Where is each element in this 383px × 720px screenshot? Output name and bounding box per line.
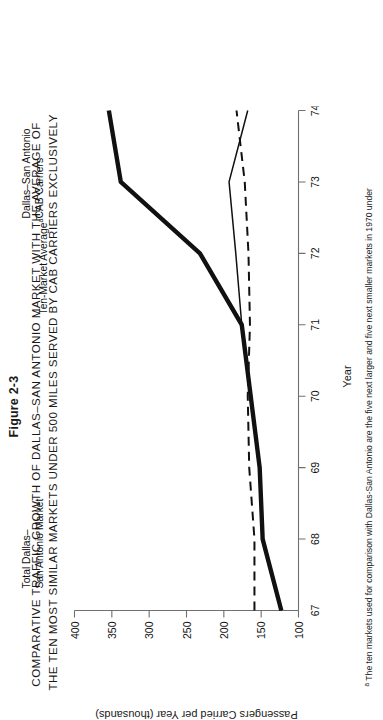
y-axis-tick-label: 250: [180, 621, 192, 639]
x-axis-tick-label: 72: [308, 247, 320, 259]
series-label-ten-market-average-text: Ten-Market Average: [37, 222, 48, 314]
y-axis-tick-label: 200: [217, 621, 229, 639]
x-axis-tick-label: 71: [308, 318, 320, 330]
series-label-total-market: Total Dallas– San Antonio Market: [20, 498, 45, 588]
figure-footnote: a The ten markets used for comparison wi…: [360, 10, 375, 686]
figure-number: Figure 2-3: [6, 126, 20, 686]
y-axis-tick-label: 350: [105, 621, 117, 639]
chart-plot-area: 100150200250300350400 6768697071727374 T…: [70, 106, 322, 646]
series-label-cab-carriers-line-2: CAB Carriers: [33, 157, 44, 218]
series-label-cab-carriers-line-1: Dallas–San Antonio: [20, 128, 31, 218]
y-axis-tick-label: 150: [255, 621, 267, 639]
x-axis-title: Year: [340, 106, 352, 646]
y-axis-tick-label: 100: [292, 621, 304, 639]
line-chart-svg: 100150200250300350400 6768697071727374: [70, 106, 322, 646]
series-label-cab-carriers: Dallas–San Antonio CAB Carriers: [20, 128, 45, 218]
series-label-total-market-line-2: San Antonio Market: [33, 498, 44, 588]
footnote-text: The ten markets used for comparison with…: [364, 188, 374, 683]
x-axis-tick-label: 69: [308, 461, 320, 473]
series-label-total-market-line-1: Total Dallas–: [20, 529, 31, 588]
x-axis-tick-label: 70: [308, 390, 320, 402]
x-axis-tick-label: 68: [308, 533, 320, 545]
x-axis-tick-label: 74: [308, 106, 320, 116]
figure-title-line-2: THE TEN MOST SIMILAR MARKETS UNDER 500 M…: [43, 118, 60, 690]
y-axis-title: Passengers Carried per Year (thousands): [0, 692, 70, 704]
footnote-marker: a: [362, 682, 369, 686]
x-axis-ticks: 6768697071727374: [298, 106, 320, 616]
series-label-ten-market-average: Ten-Market Averagea: [34, 218, 50, 314]
y-axis-ticks: 100150200250300350400: [70, 610, 304, 639]
x-axis-tick-label: 73: [308, 175, 320, 187]
x-axis-tick-label: 67: [308, 604, 320, 616]
y-axis-title-text: Passengers Carried per Year (thousands): [70, 708, 322, 720]
y-axis-tick-label: 300: [143, 621, 155, 639]
y-axis-tick-label: 400: [70, 621, 80, 639]
footnote-ref-a: a: [36, 218, 43, 222]
